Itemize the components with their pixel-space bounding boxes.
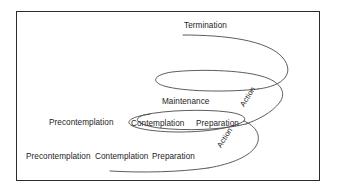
label-precontemplation-bottom: Precontemplation [26, 152, 91, 161]
label-contemplation-bottom: Contemplation [95, 152, 148, 161]
label-contemplation-middle: Contemplation [131, 119, 184, 128]
label-preparation-middle: Preparation [196, 119, 239, 128]
spiral-arm-top [183, 35, 288, 89]
label-termination: Termination [184, 21, 227, 30]
spiral-arm-bottom [110, 168, 208, 172]
label-precontemplation-middle: Precontemplation [49, 118, 114, 127]
diagram-canvas: Termination Maintenance Precontemplation… [0, 0, 338, 192]
label-maintenance: Maintenance [162, 97, 209, 106]
spiral-path-group [0, 0, 338, 192]
label-preparation-bottom: Preparation [152, 152, 195, 161]
